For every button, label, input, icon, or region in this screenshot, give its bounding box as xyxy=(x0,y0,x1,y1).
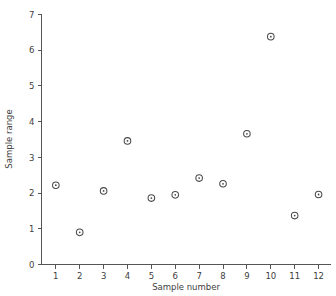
data-point-dot xyxy=(318,194,320,196)
y-tick-label: 4 xyxy=(29,117,34,127)
data-point xyxy=(267,33,274,40)
data-point-dot xyxy=(55,184,57,186)
y-tick-label: 7 xyxy=(29,10,34,20)
axis-lines xyxy=(42,15,331,265)
data-point xyxy=(148,195,155,202)
x-axis-ticks: 123456789101112 xyxy=(53,265,324,281)
x-tick-label: 1 xyxy=(53,271,58,281)
x-tick-label: 8 xyxy=(220,271,225,281)
y-tick-label: 2 xyxy=(29,188,34,198)
data-point xyxy=(315,191,322,198)
y-tick-label: 5 xyxy=(29,81,34,91)
x-tick-label: 7 xyxy=(196,271,201,281)
data-point-dot xyxy=(174,194,176,196)
x-tick-label: 11 xyxy=(289,271,300,281)
x-axis-title: Sample number xyxy=(152,282,220,292)
data-point-dot xyxy=(198,177,200,179)
scatter-chart: 01234567 123456789101112 Sample number S… xyxy=(0,0,336,296)
data-point-dot xyxy=(222,183,224,185)
x-tick-label: 6 xyxy=(173,271,178,281)
axes xyxy=(42,15,331,265)
y-tick-label: 6 xyxy=(29,45,34,55)
x-tick-label: 5 xyxy=(149,271,154,281)
y-axis-ticks: 01234567 xyxy=(29,10,41,270)
data-point xyxy=(244,130,251,137)
x-tick-label: 2 xyxy=(77,271,82,281)
data-point-dot xyxy=(103,190,105,192)
data-point xyxy=(291,212,298,219)
x-tick-label: 12 xyxy=(313,271,324,281)
x-tick-label: 9 xyxy=(244,271,249,281)
data-point-dot xyxy=(294,215,296,217)
x-tick-label: 3 xyxy=(101,271,106,281)
data-point xyxy=(76,229,83,236)
data-point xyxy=(196,175,203,182)
y-axis-title: Sample range xyxy=(4,109,14,168)
data-point-dot xyxy=(150,197,152,199)
data-point-dot xyxy=(270,36,272,38)
data-points xyxy=(53,33,322,235)
y-tick-label: 0 xyxy=(29,260,34,270)
data-point xyxy=(124,138,131,145)
data-point xyxy=(172,192,179,199)
x-tick-label: 4 xyxy=(125,271,130,281)
x-tick-label: 10 xyxy=(265,271,276,281)
y-tick-label: 1 xyxy=(29,224,34,234)
data-point xyxy=(53,182,60,189)
data-point xyxy=(100,188,107,195)
data-point xyxy=(220,180,227,187)
data-point-dot xyxy=(127,140,129,142)
y-tick-label: 3 xyxy=(29,153,34,163)
data-point-dot xyxy=(246,133,248,135)
data-point-dot xyxy=(79,231,81,233)
plot-area: 01234567 123456789101112 Sample number S… xyxy=(0,0,336,296)
